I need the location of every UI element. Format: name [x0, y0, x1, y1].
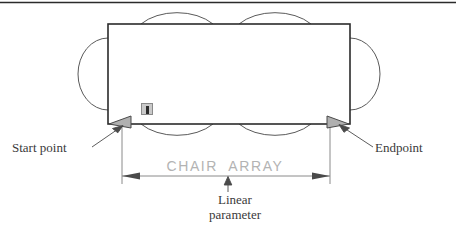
linear-parameter-marker-icon[interactable] [141, 103, 153, 115]
linear-parameter-leader-arrowhead [224, 177, 232, 186]
figure-canvas: Start point Endpoint CHAIR ARRAY Linear … [0, 0, 456, 231]
dimension-extension-lines [122, 126, 330, 184]
chair-arc-bottom-left [141, 124, 213, 135]
endpoint-label: Endpoint [375, 140, 423, 156]
start-point-label: Start point [12, 140, 67, 156]
marker-icon-bar [146, 106, 149, 114]
chair-arc-right [350, 38, 380, 110]
chair-arc-top-right [239, 13, 311, 24]
dimension-arrow-left [122, 172, 140, 179]
linear-parameter-label: Linear parameter [185, 192, 285, 222]
endpoint-leader-arrowhead [339, 125, 350, 133]
chair-arc-left [78, 38, 108, 110]
dimension-text-label: CHAIR ARRAY [160, 158, 290, 174]
dimension-arrow-right [312, 172, 330, 179]
chair-arc-bottom-right [239, 124, 311, 135]
chair-arc-top-left [141, 13, 213, 24]
